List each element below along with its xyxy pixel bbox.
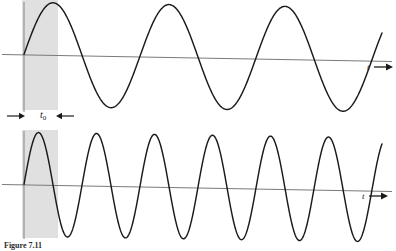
figure-caption: Figure 7.11 bbox=[4, 241, 392, 251]
time-axis-arrow-top bbox=[374, 64, 393, 71]
figure-caption-label: Figure 7.11 bbox=[4, 241, 42, 250]
time-axis-label-top: t bbox=[367, 63, 370, 72]
t0-label: t0 bbox=[40, 110, 46, 122]
t0-dimension-arrow-right bbox=[56, 113, 74, 119]
low-frequency-sine-curve bbox=[24, 3, 382, 111]
time-axis-label-bottom: t bbox=[362, 192, 365, 201]
high-frequency-sine-curve bbox=[24, 133, 382, 242]
t0-dimension-arrow-left bbox=[7, 113, 25, 119]
waveform-figure bbox=[0, 0, 396, 251]
figure-container: t0 t t Figure 7.11 bbox=[0, 0, 396, 251]
t0-subscript: 0 bbox=[43, 114, 47, 122]
